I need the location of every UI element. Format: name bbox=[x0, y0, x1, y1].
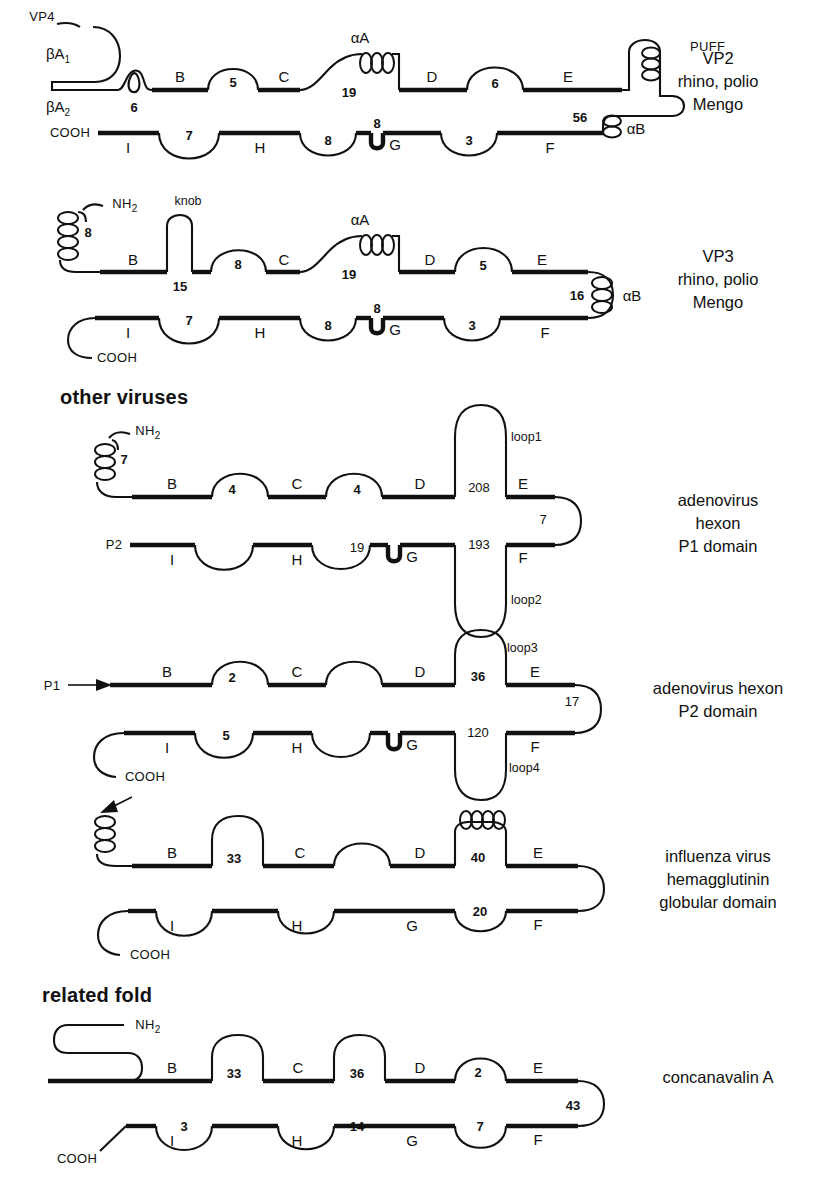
conA-num-43: 43 bbox=[566, 1098, 580, 1113]
influenza-num-33: 33 bbox=[227, 851, 241, 866]
conA-loop-14 bbox=[278, 1126, 334, 1149]
adenop1-strand-label-I: I bbox=[170, 551, 174, 568]
vp2-num-7: 7 bbox=[185, 128, 192, 143]
vp2-label-betaA2: βA2 bbox=[46, 98, 71, 118]
caption-influenza-line3: globular domain bbox=[659, 893, 776, 911]
vp2-num-6: 6 bbox=[130, 100, 137, 115]
conA-strand-label-I: I bbox=[170, 1132, 174, 1149]
adenop1-num-4a: 4 bbox=[228, 482, 236, 497]
adenop2-label-p1: P1 bbox=[44, 678, 61, 693]
vp2-alphaA-helix bbox=[360, 53, 394, 73]
adenop2-num-36: 36 bbox=[471, 669, 485, 684]
vp2-strand-label-G: G bbox=[389, 136, 401, 153]
influenza-strand-label-I: I bbox=[170, 917, 174, 934]
adenop2-strand-label-B: B bbox=[162, 663, 172, 680]
adenop1-strand-label-G: G bbox=[406, 548, 418, 565]
conA-strand-label-G: G bbox=[406, 1132, 418, 1149]
adenop2-right-hairpin bbox=[575, 685, 601, 733]
adenop1-n-helix bbox=[95, 444, 115, 480]
adenop1-strand-label-D: D bbox=[415, 475, 426, 492]
influenza-strand-label-E: E bbox=[533, 844, 543, 861]
caption-vp3-line3: Mengo bbox=[693, 293, 743, 311]
vp3-strand-label-H: H bbox=[255, 324, 266, 341]
influenza-right-hairpin bbox=[578, 866, 604, 911]
caption-adeno-p1: adenovirus hexon P1 domain bbox=[678, 491, 759, 555]
adenop1-loop-small bbox=[388, 545, 400, 561]
adenop2-label-loop3: loop3 bbox=[507, 641, 538, 655]
influenza-n-helix bbox=[95, 816, 115, 852]
vp2-label-alphaA: αA bbox=[351, 29, 370, 46]
influenza-strand-label-F: F bbox=[533, 916, 542, 933]
vp2-label-cooh: COOH bbox=[50, 125, 90, 140]
conA-strand-label-H: H bbox=[292, 1132, 303, 1149]
conA-strand-label-B: B bbox=[167, 1059, 177, 1076]
caption-vp3-line1: VP3 bbox=[702, 247, 733, 265]
conA-strand-label-C: C bbox=[293, 1059, 304, 1076]
conA-label-nh2: NH2 bbox=[135, 1017, 160, 1035]
conA-cterm-line bbox=[100, 1126, 126, 1151]
caption-concanavalin-line1: concanavalin A bbox=[663, 1068, 774, 1086]
adenop2-strand-label-I: I bbox=[165, 739, 169, 756]
adenop2-strand-label-E: E bbox=[530, 663, 540, 680]
influenza-strand-label-D: D bbox=[415, 844, 426, 861]
influenza-n-arrow-head bbox=[100, 800, 118, 813]
adenop2-loop4 bbox=[455, 733, 506, 800]
adenop1-loop-bottom bbox=[195, 545, 253, 570]
vp2-num-3: 3 bbox=[465, 133, 472, 148]
vp3-strand-label-B: B bbox=[128, 251, 138, 268]
adenop1-n-tail bbox=[109, 432, 130, 438]
vp3-num-7: 7 bbox=[185, 313, 192, 328]
vp2-loop6-inner bbox=[129, 73, 140, 92]
caption-adenop1-line2: hexon bbox=[696, 514, 741, 532]
vp3-label-nh2: NH2 bbox=[112, 196, 137, 214]
diagram-vp2: VP4 βA1 βA2 6 B 5 C αA 19 D 6 E PUFF 56 … bbox=[29, 9, 725, 159]
adenop1-label-p2: P2 bbox=[106, 537, 123, 552]
caption-adeno-p2: adenovirus hexon P2 domain bbox=[653, 679, 783, 720]
vp2-label-betaA1: βA1 bbox=[46, 45, 71, 65]
conA-num-36: 36 bbox=[350, 1066, 364, 1081]
caption-adenop1-line1: adenovirus bbox=[678, 491, 759, 509]
vp3-num-8-helix: 8 bbox=[84, 225, 91, 240]
diagram-vp3: NH2 8 knob 15 B 8 C αA 19 D 5 E 16 αB CO… bbox=[58, 194, 641, 365]
diagram-influenza: B 33 C D 40 E COOH I H G 20 F bbox=[95, 797, 604, 962]
vp3-knob bbox=[167, 215, 192, 272]
adenop1-strand-label-E: E bbox=[518, 475, 528, 492]
adenop1-strand-label-F: F bbox=[518, 549, 527, 566]
conA-strand-label-E: E bbox=[533, 1059, 543, 1076]
vp2-puff-path bbox=[612, 40, 684, 116]
vp2-strand-label-C: C bbox=[279, 68, 290, 85]
adenop2-strand-label-C: C bbox=[292, 663, 303, 680]
vp2-strand-label-E: E bbox=[563, 68, 573, 85]
conA-right-hairpin bbox=[578, 1081, 604, 1126]
diagram-adeno-p1: NH2 7 B 4 C 4 D 208 E loop1 7 P2 I H 19 … bbox=[95, 405, 581, 637]
conA-num-14: 14 bbox=[350, 1119, 365, 1134]
vp2-label-vp4: VP4 bbox=[29, 9, 54, 24]
influenza-label-cooh: COOH bbox=[130, 947, 170, 962]
vp3-label-cooh: COOH bbox=[97, 350, 137, 365]
adenop2-strand-label-D: D bbox=[415, 663, 426, 680]
vp3-loop-8-small bbox=[371, 318, 383, 333]
vp2-strand-label-B: B bbox=[175, 68, 185, 85]
diagram-concanavalin: NH2 B 33 C 36 D 2 E 43 COOH I 3 H 14 G 7… bbox=[48, 1017, 604, 1166]
vp2-strand-label-F: F bbox=[545, 139, 554, 156]
adenop2-num-5: 5 bbox=[222, 728, 229, 743]
adenop2-strand-label-G: G bbox=[406, 736, 418, 753]
conA-strand-label-F: F bbox=[533, 1131, 542, 1148]
section-title-related-fold: related fold bbox=[42, 984, 152, 1006]
conA-num-2: 2 bbox=[474, 1065, 481, 1080]
vp3-strand-label-C: C bbox=[279, 251, 290, 268]
adenop1-loop2 bbox=[455, 545, 506, 637]
adenop1-num-4b: 4 bbox=[353, 482, 361, 497]
vp2-strand-label-I: I bbox=[126, 139, 130, 156]
influenza-strand-label-C: C bbox=[295, 844, 306, 861]
adenop2-cterm-curve bbox=[94, 733, 124, 777]
caption-vp2-line1: VP2 bbox=[702, 49, 733, 67]
adenop1-loop-4a bbox=[212, 474, 268, 497]
adenop2-num-2: 2 bbox=[228, 670, 235, 685]
vp3-alphaA-helix bbox=[360, 235, 394, 255]
vp2-strand-label-H: H bbox=[255, 139, 266, 156]
adenop1-num-19: 19 bbox=[350, 540, 364, 555]
vp2-num-56: 56 bbox=[573, 110, 587, 125]
caption-vp2: VP2 rhino, polio Mengo bbox=[678, 49, 759, 113]
caption-vp3: VP3 rhino, polio Mengo bbox=[678, 247, 759, 311]
